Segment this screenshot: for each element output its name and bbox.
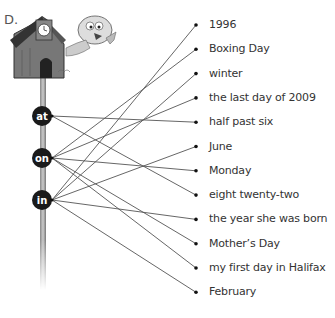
item-label: my first day in Halifax	[209, 261, 326, 274]
item-label: Mother’s Day	[209, 237, 280, 250]
connector-line-at	[52, 116, 196, 122]
item-label: eight twenty-two	[209, 188, 299, 201]
item-label: the last day of 2009	[209, 91, 316, 104]
preposition-node-in[interactable]: in	[32, 190, 54, 210]
item-dot[interactable]	[194, 193, 198, 197]
connector-line-in	[52, 74, 196, 200]
preposition-node-on[interactable]: on	[32, 148, 54, 168]
birdhouse-illustration	[10, 16, 66, 78]
preposition-label: on	[35, 153, 49, 164]
preposition-nodes: atonin	[32, 106, 54, 210]
connector-line-on	[52, 158, 196, 244]
item-dot[interactable]	[194, 96, 198, 100]
item-dot[interactable]	[194, 291, 198, 295]
item-dot[interactable]	[194, 120, 198, 124]
preposition-anchor-dot	[50, 114, 53, 117]
post	[38, 70, 48, 290]
item-label: Monday	[209, 164, 251, 177]
connector-lines	[52, 25, 196, 292]
item-label: 1996	[209, 18, 236, 31]
connector-line-in	[52, 200, 196, 292]
item-label: February	[209, 285, 256, 298]
item-label: the year she was born	[209, 212, 327, 225]
item-dots	[194, 23, 198, 294]
item-label: half past six	[209, 115, 273, 128]
bird-illustration	[58, 16, 116, 72]
item-label: Boxing Day	[209, 42, 270, 55]
item-dot[interactable]	[194, 48, 198, 52]
item-dot[interactable]	[194, 218, 198, 222]
connector-line-on	[52, 49, 196, 158]
item-dot[interactable]	[194, 145, 198, 149]
item-dot[interactable]	[194, 242, 198, 246]
connector-line-on	[52, 158, 196, 171]
preposition-node-at[interactable]: at	[32, 106, 54, 126]
preposition-anchor-dot	[50, 156, 53, 159]
item-dot[interactable]	[194, 23, 198, 27]
preposition-label: in	[37, 195, 48, 206]
preposition-label: at	[36, 111, 48, 122]
item-dot[interactable]	[194, 169, 198, 173]
item-dot[interactable]	[194, 266, 198, 270]
item-dot[interactable]	[194, 72, 198, 76]
preposition-anchor-dot	[50, 198, 53, 201]
item-label: June	[209, 140, 232, 153]
matching-exercise: D.	[0, 0, 335, 318]
item-label: winter	[209, 67, 242, 80]
connector-line-on	[52, 158, 196, 268]
connector-line-in	[52, 200, 196, 219]
